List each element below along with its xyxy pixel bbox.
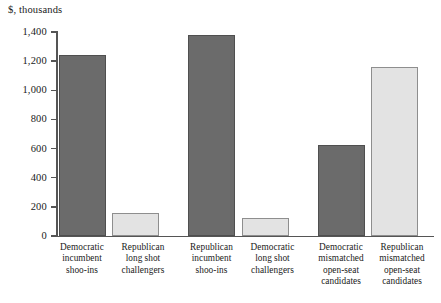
category-label-line: long shot bbox=[242, 253, 304, 264]
y-axis-tick-label: 1,200 bbox=[0, 53, 47, 69]
bar-5 bbox=[318, 145, 365, 236]
category-label-line: shoo-ins bbox=[182, 265, 242, 276]
bar-chart: $, thousands 02004006008001,0001,2001,40… bbox=[0, 0, 441, 303]
bar-6 bbox=[371, 67, 418, 236]
category-label-3: Republicanincumbentshoo-ins bbox=[182, 242, 242, 276]
y-axis-tick-label: 1,000 bbox=[0, 82, 47, 98]
category-label-line: long shot bbox=[112, 253, 174, 264]
category-label-2: Republicanlong shotchallengers bbox=[112, 242, 174, 276]
category-label-line: open-seat bbox=[308, 265, 374, 276]
category-label-line: mismatched bbox=[369, 253, 435, 264]
category-label-line: incumbent bbox=[52, 253, 112, 264]
bar-2 bbox=[112, 213, 159, 236]
category-label-line: Republican bbox=[369, 242, 435, 253]
category-label-6: Republicanmismatchedopen-seatcandidates bbox=[369, 242, 435, 288]
bar-1 bbox=[59, 55, 106, 236]
y-axis-tick-label: 800 bbox=[0, 111, 47, 127]
category-label-line: incumbent bbox=[182, 253, 242, 264]
category-label-line: Democratic bbox=[242, 242, 304, 253]
category-label-line: challengers bbox=[242, 265, 304, 276]
category-label-line: candidates bbox=[308, 276, 374, 287]
y-axis-tick-label: 200 bbox=[0, 199, 47, 215]
y-axis-tick-label: 600 bbox=[0, 141, 47, 157]
category-label-4: Democraticlong shotchallengers bbox=[242, 242, 304, 276]
plot-area bbox=[58, 32, 433, 236]
y-axis-tick-label: 400 bbox=[0, 170, 47, 186]
category-label-line: Republican bbox=[112, 242, 174, 253]
category-label-line: challengers bbox=[112, 265, 174, 276]
category-label-line: mismatched bbox=[308, 253, 374, 264]
y-axis-tick-label: 1,400 bbox=[0, 24, 47, 40]
category-label-line: open-seat bbox=[369, 265, 435, 276]
category-label-line: Republican bbox=[182, 242, 242, 253]
bar-3 bbox=[188, 35, 235, 236]
category-label-line: candidates bbox=[369, 276, 435, 287]
category-label-line: Democratic bbox=[52, 242, 112, 253]
y-axis-tick-label: 0 bbox=[0, 228, 47, 244]
category-label-line: Democratic bbox=[308, 242, 374, 253]
category-label-5: Democraticmismatchedopen-seatcandidates bbox=[308, 242, 374, 288]
category-label-line: shoo-ins bbox=[52, 265, 112, 276]
bar-4 bbox=[242, 218, 289, 236]
category-label-1: Democraticincumbentshoo-ins bbox=[52, 242, 112, 276]
y-axis-unit-label: $, thousands bbox=[8, 4, 62, 15]
